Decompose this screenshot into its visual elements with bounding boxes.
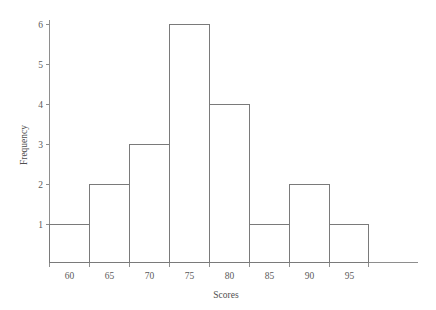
bars-group: [50, 25, 369, 263]
y-axis-title: Frequency: [19, 125, 29, 165]
bar-90: [290, 185, 330, 263]
x-tick-label-70: 70: [145, 271, 155, 281]
bar-80: [210, 105, 250, 263]
histogram-chart: 1 2 3 4 5 6 60: [0, 0, 436, 310]
y-tick-label-6: 6: [38, 20, 43, 30]
x-tick-label-65: 65: [105, 271, 115, 281]
y-tick-label-5: 5: [38, 60, 43, 70]
bar-65: [90, 185, 130, 263]
x-tick-label-60: 60: [65, 271, 75, 281]
x-tick-marks: [50, 263, 369, 268]
x-tick-label-85: 85: [265, 271, 275, 281]
bar-70: [130, 145, 170, 263]
y-tick-label-4: 4: [38, 100, 43, 110]
x-axis-title: Scores: [213, 290, 239, 300]
x-tick-label-75: 75: [185, 271, 195, 281]
y-tick-label-2: 2: [38, 180, 43, 190]
histogram-svg: 1 2 3 4 5 6 60: [0, 0, 436, 310]
bar-85: [250, 225, 290, 263]
x-tick-label-95: 95: [345, 271, 355, 281]
bar-95: [330, 225, 369, 263]
x-tick-label-90: 90: [305, 271, 315, 281]
y-tick-label-3: 3: [38, 140, 43, 150]
bar-60: [50, 225, 90, 263]
y-tick-label-1: 1: [38, 220, 43, 230]
bar-75: [170, 25, 210, 263]
x-tick-label-80: 80: [225, 271, 235, 281]
